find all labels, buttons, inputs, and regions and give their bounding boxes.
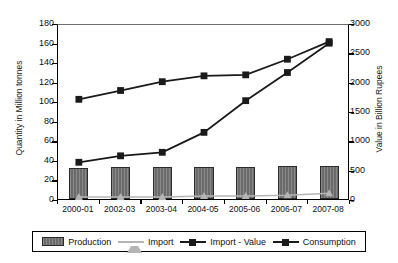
y-tick-left-80: 80: [22, 116, 54, 126]
legend-item-production: Production: [42, 237, 111, 247]
legend-item-consumption: Consumption: [273, 237, 356, 247]
series-line: [79, 43, 329, 162]
legend-label-production: Production: [68, 237, 111, 247]
data-point-2004-05: [201, 129, 208, 136]
x-tickmark: [140, 200, 141, 204]
data-point-2002-03: [117, 152, 124, 159]
data-point-2007-08: [326, 38, 333, 45]
legend-item-import: Import: [118, 237, 174, 247]
x-tickmark: [57, 200, 58, 204]
legend-item-import-value: Import - Value: [180, 237, 266, 247]
y-tickmark-left: [52, 44, 57, 45]
y-tick-left-40: 40: [22, 155, 54, 165]
x-tick-label-2005-06: 2005-06: [222, 204, 268, 214]
plot-area: [57, 24, 349, 200]
chart-container: Quantity in Million tonnes Value in Bill…: [0, 0, 398, 263]
legend-label-import: Import: [148, 237, 174, 247]
y-tickmark-right: [349, 171, 354, 172]
x-tickmark: [224, 200, 225, 204]
y-tickmark-left: [52, 180, 57, 181]
x-tick-label-2004-05: 2004-05: [180, 204, 226, 214]
y-axis-right-ticks: 050010001500200025003000: [350, 0, 390, 263]
data-point-2002-03: [117, 87, 124, 94]
data-point-2004-05: [201, 72, 208, 79]
line-series-layer: [58, 25, 350, 201]
y-tickmark-right: [349, 53, 354, 54]
series-import-value: [75, 40, 332, 166]
x-tickmark: [266, 200, 267, 204]
x-tick-label-2006-07: 2006-07: [263, 204, 309, 214]
x-tickmark: [99, 200, 100, 204]
x-tick-label-2000-01: 2000-01: [55, 204, 101, 214]
x-tick-label-2002-03: 2002-03: [97, 204, 143, 214]
y-axis-left-ticks: 020406080100120140160180: [22, 0, 54, 263]
y-tickmark-left: [52, 141, 57, 142]
y-tickmark-right: [349, 112, 354, 113]
line-square-swatch-icon-2: [273, 237, 299, 247]
y-tick-left-60: 60: [22, 135, 54, 145]
y-tickmark-left: [52, 24, 57, 25]
series-import: [75, 189, 333, 200]
y-tick-left-120: 120: [22, 77, 54, 87]
x-tickmark: [349, 200, 350, 204]
y-tick-left-160: 160: [22, 38, 54, 48]
y-tick-right-2000: 2000: [350, 77, 390, 87]
y-tick-right-500: 500: [350, 165, 390, 175]
y-tickmark-left: [52, 102, 57, 103]
y-tickmark-right: [349, 83, 354, 84]
series-consumption: [75, 38, 332, 102]
legend-label-import-value: Import - Value: [210, 237, 266, 247]
data-point-2000-01: [75, 159, 82, 166]
y-tick-right-1500: 1500: [350, 106, 390, 116]
y-tickmark-left: [52, 63, 57, 64]
y-tick-left-20: 20: [22, 174, 54, 184]
chart-legend: Production Import Import - Value Consump…: [32, 231, 366, 252]
x-tick-label-2003-04: 2003-04: [138, 204, 184, 214]
x-tickmark: [182, 200, 183, 204]
data-point-2006-07: [284, 69, 291, 76]
data-point-2003-04: [159, 149, 166, 156]
x-tickmark: [307, 200, 308, 204]
data-point-2006-07: [284, 56, 291, 63]
line-triangle-swatch-icon: [118, 237, 144, 247]
legend-label-consumption: Consumption: [303, 237, 356, 247]
y-tick-right-1000: 1000: [350, 135, 390, 145]
y-tickmark-left: [52, 161, 57, 162]
data-point-2003-04: [159, 78, 166, 85]
bar-swatch-icon: [42, 237, 64, 246]
y-tick-left-0: 0: [22, 194, 54, 204]
data-point-2005-06: [242, 71, 249, 78]
y-tick-left-140: 140: [22, 57, 54, 67]
y-tick-right-2500: 2500: [350, 47, 390, 57]
data-point-2005-06: [242, 97, 249, 104]
y-tickmark-right: [349, 141, 354, 142]
y-tickmark-right: [349, 24, 354, 25]
data-point-2000-01: [75, 96, 82, 103]
y-tick-right-0: 0: [350, 194, 390, 204]
y-tickmark-left: [52, 122, 57, 123]
line-square-swatch-icon-1: [180, 237, 206, 247]
y-tick-left-180: 180: [22, 18, 54, 28]
y-tick-left-100: 100: [22, 96, 54, 106]
y-tick-right-3000: 3000: [350, 18, 390, 28]
x-tick-label-2007-08: 2007-08: [305, 204, 351, 214]
y-tickmark-left: [52, 83, 57, 84]
